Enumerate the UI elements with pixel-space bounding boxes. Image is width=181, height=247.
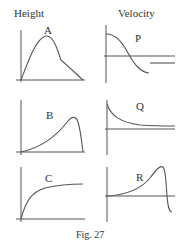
- label-b: B: [46, 109, 53, 121]
- header-velocity: Velocity: [118, 7, 155, 19]
- label-r: R: [136, 171, 144, 183]
- curve-p: [106, 34, 149, 73]
- header-height: Height: [14, 7, 44, 19]
- graph-a: [16, 30, 85, 82]
- figure-caption: Fig. 27: [76, 229, 104, 240]
- label-p: P: [135, 32, 141, 44]
- curve-a: [21, 36, 83, 80]
- label-q: Q: [136, 100, 144, 112]
- label-c: C: [45, 172, 52, 184]
- figure-27: Height Velocity A P B Q C R: [0, 0, 181, 247]
- curve-c: [21, 184, 83, 219]
- curve-b: [21, 117, 83, 152]
- label-a: A: [44, 24, 52, 36]
